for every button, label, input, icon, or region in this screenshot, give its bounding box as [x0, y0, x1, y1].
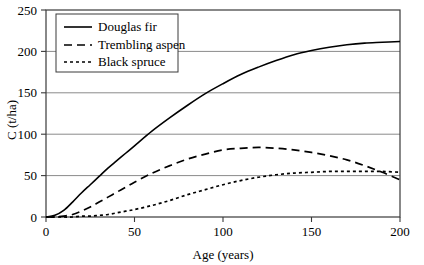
y-tick-label-150: 150	[18, 85, 38, 100]
series-line-trembling-aspen	[46, 147, 400, 217]
y-axis-tick-labels-group: 050100150200250	[18, 3, 38, 225]
y-tick-label-250: 250	[18, 3, 38, 18]
y-tick-label-200: 200	[18, 44, 38, 59]
x-tick-label-200: 200	[390, 224, 410, 239]
y-tick-label-100: 100	[18, 127, 38, 142]
carbon-vs-age-line-chart: 050100150200250 050100150200 C (t/ha) Ag…	[0, 0, 424, 265]
legend-label-black-spruce: Black spruce	[98, 54, 166, 69]
x-tick-label-0: 0	[43, 224, 50, 239]
series-line-black-spruce	[46, 171, 400, 217]
x-axis-tick-labels-group: 050100150200	[43, 224, 410, 239]
x-tick-label-50: 50	[128, 224, 141, 239]
x-axis-ticks-group	[46, 217, 400, 222]
x-tick-label-100: 100	[213, 224, 233, 239]
chart-legend: Douglas firTrembling aspenBlack spruce	[56, 14, 186, 72]
y-axis-ticks-group	[41, 10, 46, 217]
chart-figure: 050100150200250 050100150200 C (t/ha) Ag…	[0, 0, 424, 265]
x-tick-label-150: 150	[302, 224, 322, 239]
x-axis-title: Age (years)	[193, 247, 254, 262]
legend-label-douglas-fir: Douglas fir	[98, 19, 158, 34]
y-tick-label-0: 0	[31, 210, 38, 225]
legend-label-trembling-aspen: Trembling aspen	[98, 37, 186, 52]
y-tick-label-50: 50	[24, 168, 37, 183]
y-axis-title: C (t/ha)	[4, 100, 19, 140]
